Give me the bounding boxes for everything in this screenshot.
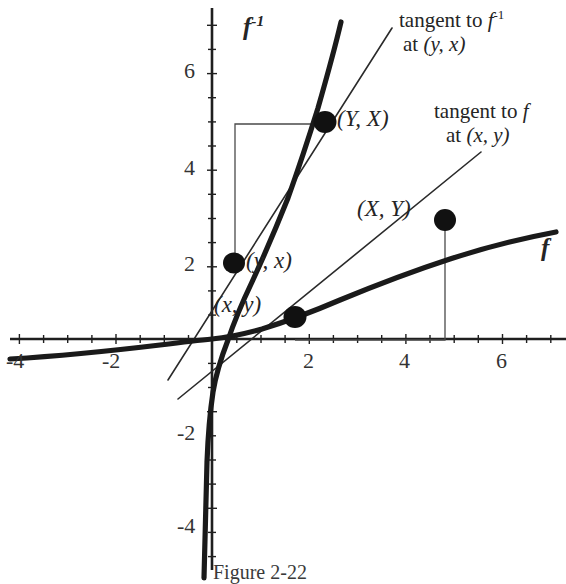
annotation-tangent-f-fn: f — [523, 99, 529, 123]
point-label-lower-inverse: (y, x) — [246, 248, 292, 274]
y-tick-label-4: 4 — [184, 156, 195, 181]
point-upper-f — [434, 209, 456, 231]
y-tick-label-minus2: -2 — [177, 421, 195, 446]
curve-label-f-inverse-exponent: -1 — [251, 12, 264, 29]
annotation-tangent-f-line2: at (x, y) — [434, 124, 529, 148]
annotation-tangent-f-inverse-sup: -1 — [494, 7, 505, 22]
y-tick-label-6: 6 — [184, 59, 195, 84]
annotation-tangent-f-inverse-line1: tangent to f-1 — [399, 8, 504, 32]
x-tick-label-6: 6 — [496, 349, 507, 374]
guide-lines — [235, 124, 445, 340]
curve-label-f-base: f — [541, 234, 549, 261]
annotation-tangent-f: tangent to f at (x, y) — [434, 100, 529, 147]
guide-rect-f — [295, 220, 445, 340]
point-label-lower-f: (x, y) — [214, 292, 261, 318]
annotation-tangent-f-inverse-at: at — [403, 32, 423, 56]
annotation-tangent-f-at: at — [446, 123, 466, 147]
point-label-upper-inverse: (Y, X) — [337, 106, 389, 132]
x-tick-label-minus4: -4 — [6, 349, 24, 374]
curve-label-f-inverse: f-1 — [243, 12, 264, 41]
y-tick-label-2: 2 — [184, 252, 195, 277]
x-tick-label-2: 2 — [303, 349, 314, 374]
annotation-tangent-f-line1: tangent to f — [434, 99, 529, 123]
point-lower-inverse — [223, 253, 245, 274]
plot-canvas — [0, 0, 566, 584]
point-label-upper-f: (X, Y) — [357, 196, 411, 222]
annotation-tangent-f-inverse-prefix: tangent to — [399, 8, 488, 32]
point-upper-inverse — [314, 111, 337, 133]
tangent-line-f — [178, 152, 481, 399]
annotation-tangent-f-prefix: tangent to — [434, 99, 523, 123]
x-tick-label-4: 4 — [399, 349, 410, 374]
annotation-tangent-f-inverse-point: (y, x) — [423, 32, 465, 56]
y-tick-label-minus4: -4 — [177, 514, 195, 539]
point-lower-f — [284, 306, 307, 328]
annotation-tangent-f-inverse: tangent to f-1 at (y, x) — [399, 8, 504, 56]
guide-rect-inverse — [235, 124, 325, 262]
x-axis — [10, 334, 566, 344]
curve-label-f: f — [541, 234, 549, 262]
annotation-tangent-f-point: (x, y) — [466, 123, 509, 147]
figure-caption: Figure 2-22 — [213, 561, 307, 584]
x-tick-label-minus2: -2 — [102, 349, 120, 374]
figure-2-22: -4 -2 2 4 6 6 4 2 -2 -4 f-1 f (Y, X) (y,… — [0, 0, 566, 584]
annotation-tangent-f-inverse-line2: at (y, x) — [399, 33, 504, 57]
